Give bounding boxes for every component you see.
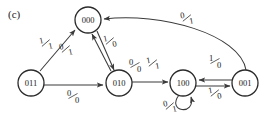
node-group: 000 011 010 100 001: [18, 7, 258, 96]
edge-label-num: 0: [129, 57, 133, 67]
node-011[interactable]: 011: [18, 70, 44, 96]
node-011-label: 011: [25, 78, 37, 88]
edge-label-den: 0: [216, 90, 222, 101]
edge-label-011-to-000: 1 1: [38, 33, 54, 52]
edge-label-010-to-100-a: 0 0: [129, 57, 141, 74]
edge-label-011-to-010: 0 0: [67, 88, 79, 105]
node-010[interactable]: 010: [106, 70, 132, 96]
edge-label-num: 1: [102, 33, 108, 44]
edge-label-num: 1: [145, 55, 151, 66]
edge-label-num: 0: [58, 41, 64, 52]
edge-label-num: 0: [162, 98, 168, 109]
edge-001-to-000: [104, 18, 246, 70]
edge-label-den: 1: [47, 40, 53, 51]
edge-label-den: 1: [67, 46, 73, 57]
edge-label-num: 1: [207, 85, 213, 96]
edge-100-self-loop: [176, 95, 192, 110]
node-001-label: 001: [239, 78, 252, 88]
edge-label-010-to-100-b: 1 1: [145, 54, 160, 73]
node-000-label: 000: [82, 15, 95, 25]
edge-label-den: 0: [137, 64, 141, 74]
edge-label-num: 0: [179, 10, 185, 21]
edge-label-num: 0: [67, 88, 71, 98]
state-diagram-canvas: 000 011 010 100 001 1: [0, 0, 280, 126]
state-diagram-figure: (c): [0, 0, 280, 126]
edge-label-num: 1: [209, 53, 213, 63]
node-000[interactable]: 000: [75, 7, 101, 33]
edge-label-010-to-000: 0 1: [58, 39, 74, 58]
node-010-label: 010: [113, 78, 126, 88]
edge-label-group: 1 1 0 1 1 0 0 0 0 0: [38, 9, 222, 116]
edge-010-to-000: [92, 34, 111, 71]
edge-label-den: 0: [75, 95, 79, 105]
node-100[interactable]: 100: [170, 70, 196, 96]
edge-label-den: 1: [154, 60, 160, 71]
edge-label-den: 0: [217, 60, 221, 70]
node-001[interactable]: 001: [232, 70, 258, 96]
edge-label-num: 1: [38, 35, 44, 46]
edge-label-den: 1: [188, 15, 194, 26]
edge-label-001-to-100: 1 0: [209, 53, 221, 70]
node-100-label: 100: [177, 78, 190, 88]
edge-label-100-self-loop: 0 1: [162, 96, 178, 115]
edge-label-den: 0: [111, 38, 117, 49]
edge-label-den: 1: [171, 103, 177, 114]
